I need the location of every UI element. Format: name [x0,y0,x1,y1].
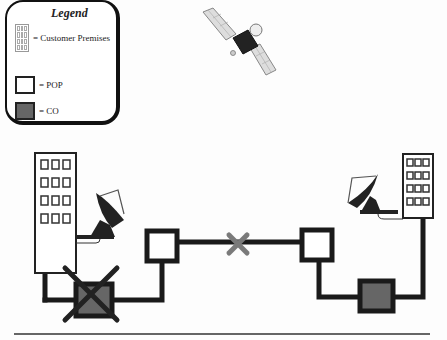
left-customer-premises-building [35,153,76,273]
left-pop-node [147,231,177,261]
satellite-icon [203,8,276,75]
right-co-node [360,281,393,311]
left-satellite-dish-icon [76,190,124,243]
link-right-co-to-building [393,218,423,297]
right-pop-node [302,230,332,260]
link-right-pop-to-co [319,260,360,297]
network-diagram [0,0,447,340]
right-satellite-dish-icon [348,174,403,219]
right-customer-premises-building [403,154,433,218]
